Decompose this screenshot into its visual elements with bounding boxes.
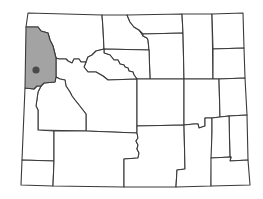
county-niobrara [219,78,247,117]
county-layer [21,13,250,187]
county-laramie [211,157,250,186]
county-campbell [182,14,213,79]
county-uinta [21,160,54,186]
county-natrona [137,79,184,126]
county-weston [213,48,245,79]
county-goshen [229,115,248,161]
location-marker [32,66,39,73]
county-crook [212,13,244,49]
county-platte [211,116,231,161]
wyoming-county-map [0,0,263,199]
